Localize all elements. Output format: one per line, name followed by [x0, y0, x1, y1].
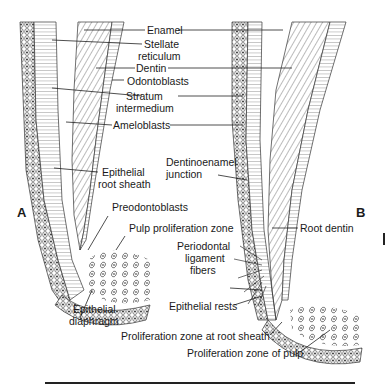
- figure-bottom-rule: [45, 382, 355, 384]
- label-pulp-proliferation-zone: Pulp proliferation zone: [129, 222, 233, 234]
- label-stratum-intermedium-2: intermedium: [116, 102, 174, 114]
- label-periodontal-ligament-fibers-3: fibers: [190, 264, 216, 276]
- label-proliferation-zone-root-sheath: Proliferation zone at root sheath: [121, 330, 270, 342]
- panel-label-a: A: [17, 205, 26, 220]
- label-epithelial-root-sheath-1: Epithelial: [102, 166, 145, 178]
- panel-label-b: B: [356, 205, 365, 220]
- label-periodontal-ligament-fibers-2: ligament: [185, 252, 225, 264]
- label-dentinoenamel-junction-2: junction: [166, 168, 202, 180]
- label-stellate-reticulum-1: Stellate: [144, 38, 179, 50]
- tooth-root-development-figure: [0, 0, 386, 385]
- label-periodontal-ligament-fibers-1: Periodontal: [177, 240, 230, 252]
- label-epithelial-rests: Epithelial rests: [169, 300, 237, 312]
- label-dentin: Dentin: [136, 62, 166, 74]
- label-epithelial-diaphragm-1: Epithelial: [73, 303, 116, 315]
- label-enamel: Enamel: [147, 24, 183, 36]
- panel-b-drawing: [232, 22, 362, 364]
- label-ameloblasts: Ameloblasts: [113, 119, 170, 131]
- label-root-dentin: Root dentin: [300, 222, 354, 234]
- label-stellate-reticulum-2: reticulum: [138, 50, 181, 62]
- label-dentinoenamel-junction-1: Dentinoenamel: [166, 156, 237, 168]
- label-odontoblasts: Odontoblasts: [127, 75, 189, 87]
- label-epithelial-diaphragm-2: diaphragm: [69, 315, 119, 327]
- label-epithelial-root-sheath-2: root sheath: [98, 178, 151, 190]
- histology-illustration: [0, 0, 386, 385]
- label-proliferation-zone-pulp: Proliferation zone of pulp: [187, 347, 303, 359]
- cropped-edge-mark: [383, 233, 385, 245]
- label-stratum-intermedium-1: Stratum: [126, 90, 163, 102]
- label-preodontoblasts: Preodontoblasts: [112, 201, 188, 213]
